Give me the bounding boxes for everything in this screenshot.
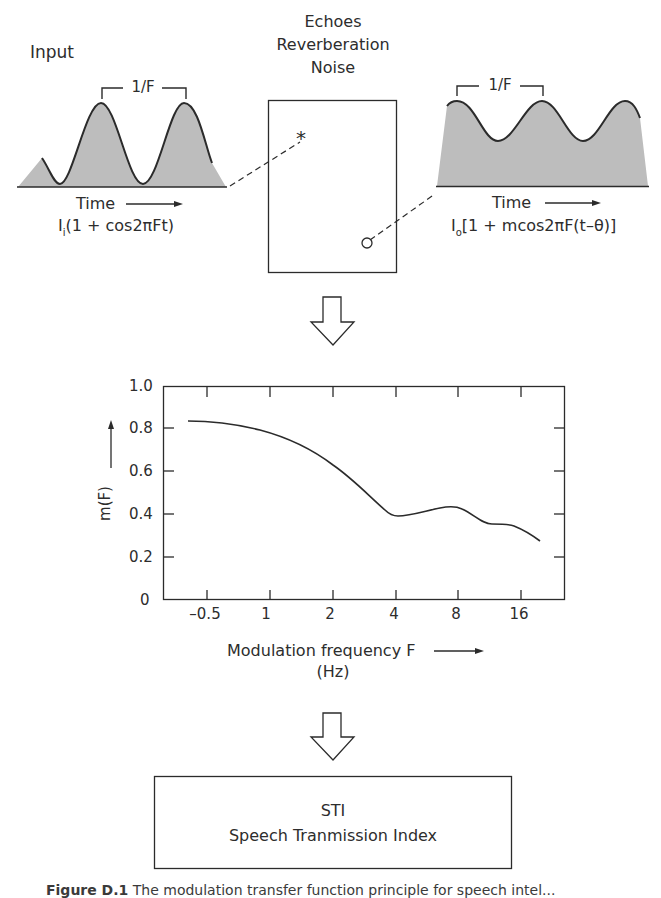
mtf-chart bbox=[108, 387, 565, 655]
x-axis-unit: (Hz) bbox=[317, 664, 350, 680]
input-formula: Ii(1 + cos2πFt) bbox=[58, 218, 174, 238]
sti-subtitle: Speech Tranmission Index bbox=[229, 828, 437, 844]
y-tick-0.2: 0.2 bbox=[129, 550, 153, 565]
y-tick-0.8: 0.8 bbox=[129, 421, 153, 436]
output-waveform bbox=[436, 86, 649, 206]
y-tick-1.0: 1.0 bbox=[129, 379, 153, 394]
output-period-label: 1/F bbox=[486, 78, 513, 93]
output-formula-body: [1 + mcos2πF(t–θ)] bbox=[462, 216, 616, 235]
channel-box bbox=[230, 101, 435, 273]
input-waveform bbox=[17, 88, 227, 207]
source-star-icon: * bbox=[296, 128, 306, 148]
figure-caption-text: The modulation transfer function princip… bbox=[133, 882, 556, 898]
output-formula: Io[1 + mcos2πF(t–θ)] bbox=[451, 218, 616, 238]
mtf-curve bbox=[188, 421, 540, 541]
x-tick-2: 2 bbox=[325, 607, 335, 622]
x-tick-16: 16 bbox=[509, 607, 528, 622]
x-tick-neg0.5: –0.5 bbox=[189, 607, 220, 622]
x-tick-4: 4 bbox=[389, 607, 399, 622]
input-formula-body: (1 + cos2πFt) bbox=[66, 216, 174, 235]
figure-caption: Figure D.1 The modulation transfer funct… bbox=[46, 882, 555, 898]
y-tick-0: 0 bbox=[140, 593, 150, 608]
output-time-label: Time bbox=[492, 195, 531, 211]
sti-title: STI bbox=[321, 803, 346, 819]
input-time-label: Time bbox=[76, 196, 115, 212]
y-axis-label: m(F) bbox=[98, 486, 113, 521]
x-tick-1: 1 bbox=[261, 607, 271, 622]
input-period-label: 1/F bbox=[129, 80, 156, 95]
sti-box bbox=[155, 777, 512, 869]
y-tick-0.6: 0.6 bbox=[129, 464, 153, 479]
figure-caption-label: Figure D.1 bbox=[46, 882, 128, 898]
down-arrow-icon bbox=[311, 713, 354, 760]
y-tick-0.4: 0.4 bbox=[129, 507, 153, 522]
x-tick-8: 8 bbox=[451, 607, 461, 622]
down-arrow-icon bbox=[311, 297, 354, 345]
x-axis-label: Modulation frequency F bbox=[227, 643, 415, 659]
